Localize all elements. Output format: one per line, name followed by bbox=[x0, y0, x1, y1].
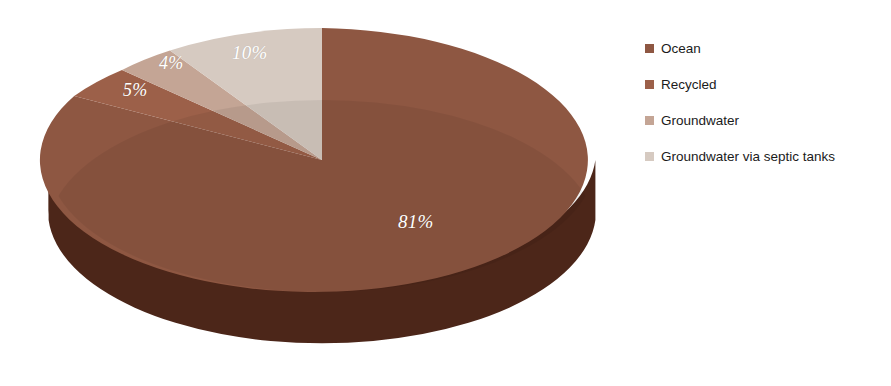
legend-item-ocean[interactable]: Ocean bbox=[645, 33, 885, 64]
pie-svg bbox=[0, 0, 620, 386]
slice-value-label-groundwater: 4% bbox=[159, 53, 184, 74]
chart-legend: Ocean Recycled Groundwater Groundwater v… bbox=[645, 33, 885, 177]
legend-item-groundwater[interactable]: Groundwater bbox=[645, 105, 885, 136]
legend-label-groundwater: Groundwater bbox=[661, 114, 739, 128]
legend-swatch-icon-groundwater bbox=[645, 116, 654, 125]
pie-graphic-area: 81% 10% 4% 5% bbox=[0, 0, 620, 386]
slice-value-label-ocean: 81% bbox=[398, 211, 434, 233]
legend-swatch-icon-recycled bbox=[645, 80, 654, 89]
legend-label-ocean: Ocean bbox=[661, 42, 701, 56]
legend-swatch-icon-groundwater-septic bbox=[645, 152, 654, 161]
legend-swatch-icon-ocean bbox=[645, 44, 654, 53]
legend-label-recycled: Recycled bbox=[661, 78, 717, 92]
slice-value-label-recycled: 5% bbox=[123, 80, 148, 101]
pie-chart: 81% 10% 4% 5% Ocean Recycled Groundwater… bbox=[0, 0, 891, 386]
legend-item-groundwater-septic[interactable]: Groundwater via septic tanks bbox=[645, 141, 885, 172]
slice-value-label-groundwater-septic: 10% bbox=[232, 42, 268, 64]
legend-item-recycled[interactable]: Recycled bbox=[645, 69, 885, 100]
legend-label-groundwater-septic: Groundwater via septic tanks bbox=[661, 150, 835, 164]
